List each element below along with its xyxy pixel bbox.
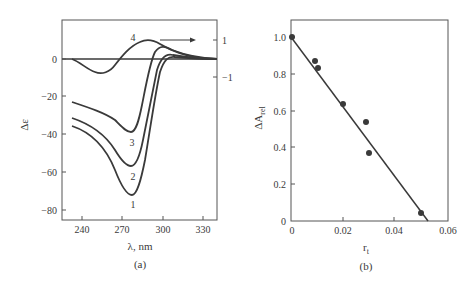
- y-tick-label: 0.4: [274, 142, 287, 153]
- y-tick-label: 0.2: [274, 179, 287, 190]
- curve-label-2: 2: [131, 171, 136, 182]
- x-tick-label: 0: [290, 225, 295, 236]
- fit-line: [291, 37, 428, 221]
- curve-label-3: 3: [130, 137, 135, 148]
- x-tick-label: 330: [196, 224, 211, 235]
- panel-a-x-axis-label: λ, nm: [128, 240, 153, 252]
- panel-a-x-ticks: 240 270 300 330: [75, 216, 211, 235]
- x-tick-label: 0.02: [334, 225, 352, 236]
- x-tick-label: 270: [115, 224, 130, 235]
- panel-a-frame: [62, 20, 217, 220]
- panel-b-y-axis-label: ΔArel: [252, 105, 267, 129]
- panel-a: 0 −20 −40 −60 −80 1 −1 240 270 300 330 Δ…: [18, 20, 233, 271]
- panel-b-frame: [291, 20, 448, 221]
- x-tick-label: 300: [156, 224, 171, 235]
- curve-label-1: 1: [131, 199, 136, 210]
- y-tick-label: −20: [41, 91, 57, 102]
- right-tick-label: 1: [222, 35, 227, 46]
- data-point: [289, 34, 295, 40]
- panel-b-y-ticks: 1.0 0.8 0.6 0.4 0.2 0: [274, 32, 296, 227]
- y-tick-label: 0.6: [274, 106, 287, 117]
- y-tick-label: −40: [41, 129, 57, 140]
- panel-b-caption: (b): [360, 260, 373, 273]
- data-point: [366, 150, 372, 156]
- x-tick-label: 0.06: [439, 225, 457, 236]
- curve-4: [72, 40, 217, 73]
- y-tick-label: 0.8: [274, 69, 287, 80]
- data-point: [312, 58, 318, 64]
- curve-label-4: 4: [131, 32, 136, 43]
- data-point: [363, 119, 369, 125]
- y-tick-label: 1.0: [274, 32, 287, 43]
- x-tick-label: 0.04: [385, 225, 403, 236]
- data-point: [340, 101, 346, 107]
- x-tick-label: 240: [75, 224, 90, 235]
- y-tick-label: −80: [41, 205, 57, 216]
- figure: 0 −20 −40 −60 −80 1 −1 240 270 300 330 Δ…: [0, 0, 476, 287]
- y-tick-label: 0: [281, 216, 286, 227]
- data-point: [315, 65, 321, 71]
- data-point: [418, 210, 424, 216]
- curve-1: [72, 57, 217, 195]
- y-tick-label: −60: [41, 167, 57, 178]
- panel-a-y-axis-label: Δε: [18, 119, 30, 131]
- y-tick-label: 0: [52, 54, 57, 65]
- panel-b-x-ticks: 0 0.02 0.04 0.06: [290, 217, 457, 236]
- panel-a-caption: (a): [134, 258, 147, 271]
- panel-b-x-axis-label: rt: [363, 241, 370, 256]
- right-tick-label: −1: [222, 72, 233, 83]
- right-axis-arrow: [160, 38, 196, 43]
- panel-b: 1.0 0.8 0.6 0.4 0.2 0 0 0.02 0.04 0.06 Δ…: [252, 20, 457, 273]
